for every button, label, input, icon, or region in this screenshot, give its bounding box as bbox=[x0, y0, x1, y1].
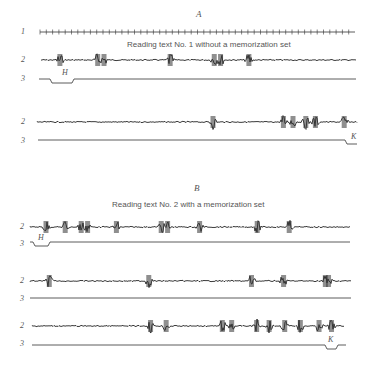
emg-burst bbox=[79, 221, 84, 233]
emg-burst bbox=[212, 54, 217, 66]
emg-burst bbox=[165, 221, 170, 233]
emg-burst bbox=[313, 116, 318, 128]
emg-burst bbox=[148, 320, 153, 332]
emg-burst bbox=[220, 320, 225, 332]
emg-burst bbox=[326, 275, 331, 287]
emg-burst bbox=[63, 221, 68, 233]
emg-burst bbox=[95, 54, 100, 66]
panel-b-row3-signal-trace bbox=[32, 319, 344, 333]
emg-burst bbox=[229, 320, 234, 332]
emg-burst bbox=[44, 221, 49, 233]
emg-burst bbox=[317, 320, 322, 332]
panel-a-row2-event-trace bbox=[38, 140, 357, 144]
emg-burst bbox=[303, 116, 308, 128]
emg-burst bbox=[255, 221, 260, 233]
panel-a-row2-signal-trace bbox=[37, 116, 357, 130]
emg-burst bbox=[342, 116, 347, 128]
emg-burst bbox=[281, 275, 286, 287]
panel-b-row2-signal-trace bbox=[30, 276, 351, 288]
emg-burst bbox=[249, 275, 254, 287]
emg-burst bbox=[114, 221, 119, 233]
emg-burst bbox=[287, 221, 292, 233]
panel-a-row1-event-trace bbox=[39, 79, 356, 83]
trace-canvas bbox=[0, 0, 369, 370]
emg-burst bbox=[246, 54, 251, 66]
emg-burst bbox=[159, 221, 164, 233]
emg-burst bbox=[281, 116, 286, 128]
emg-burst bbox=[164, 320, 169, 332]
emg-burst bbox=[211, 116, 216, 128]
emg-burst bbox=[218, 54, 223, 66]
emg-burst bbox=[47, 275, 52, 287]
emg-burst bbox=[282, 320, 287, 332]
emg-burst bbox=[329, 320, 334, 332]
panel-a-row1-signal-trace bbox=[41, 54, 356, 65]
panel-b-row1-event-trace bbox=[30, 242, 350, 246]
emg-burst bbox=[267, 320, 272, 332]
emg-burst bbox=[102, 54, 107, 66]
emg-burst bbox=[146, 275, 151, 287]
panel-b-row1-signal-trace bbox=[30, 220, 350, 232]
panel-b-row3-event-trace bbox=[32, 345, 346, 349]
emg-burst bbox=[291, 116, 296, 128]
emg-burst bbox=[197, 221, 202, 233]
emg-burst bbox=[254, 320, 259, 332]
emg-burst bbox=[168, 54, 173, 66]
emg-burst bbox=[57, 54, 62, 66]
emg-burst bbox=[85, 221, 90, 233]
emg-burst bbox=[298, 320, 303, 332]
